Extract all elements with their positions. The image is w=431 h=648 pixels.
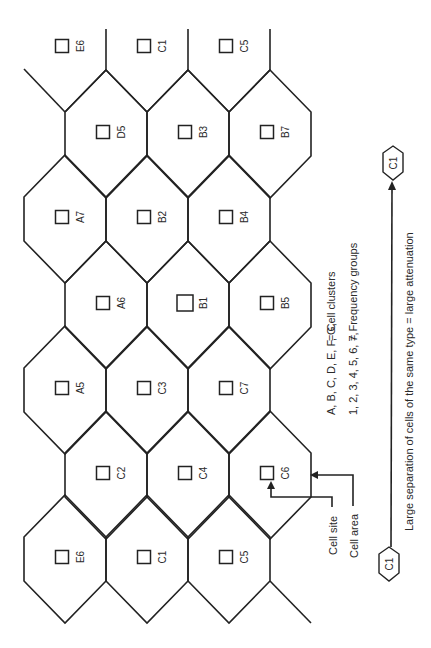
- grid-edge: [24, 69, 65, 112]
- cell-site-icon: [138, 551, 151, 564]
- grid-edge: [229, 70, 270, 112]
- cell-site-icon: [138, 211, 151, 224]
- grid-edge: [65, 70, 106, 112]
- cell-site-icon: [261, 126, 274, 139]
- separation-indicator: C1 C1 Large separation of cells of the s…: [379, 146, 415, 581]
- cell-site-icon: [179, 467, 192, 480]
- cell-site-icon: [177, 295, 193, 311]
- cell-label: A7: [75, 210, 86, 223]
- cell-area-label: Cell area: [348, 513, 360, 558]
- cell-label: A6: [116, 296, 127, 309]
- cell-label: C4: [198, 466, 209, 479]
- marker-hex-top: C1: [383, 146, 403, 180]
- cell-site-icon: [179, 126, 192, 139]
- cell-site-callout: Cell site: [267, 481, 339, 555]
- cell-label: C6: [280, 466, 291, 479]
- cell-site-icon: [56, 211, 69, 224]
- cell-site-icon: [261, 297, 274, 310]
- cell-site-icon: [220, 382, 233, 395]
- cell-site-icon: [138, 40, 151, 53]
- cell-label: B3: [198, 125, 209, 138]
- hex-cell-grid: [24, 70, 311, 623]
- cell-site-icon: [56, 382, 69, 395]
- cell-label: B7: [280, 125, 291, 138]
- legend-clusters-meaning: = Cell clusters: [325, 271, 337, 341]
- cell-site-icon: [97, 467, 110, 480]
- cell-reuse-diagram: E6C1C5D5B3B7A7B2B4A6B1B5A5C3C7C2C4C6E6C1…: [0, 0, 431, 648]
- separation-arrow-line: [391, 188, 392, 547]
- legend: A, B, C, D, E, F, G, = Cell clusters 1, …: [325, 242, 359, 415]
- grid-edge: [188, 70, 229, 112]
- cell-site-icon: [97, 297, 110, 310]
- cell-site-icon: [220, 211, 233, 224]
- grid-edge: [106, 70, 147, 112]
- cell-site-icon: [138, 382, 151, 395]
- cell-sites: E6C1C5D5B3B7A7B2B4A6B1B5A5C3C7C2C4C6E6C1…: [56, 39, 292, 563]
- separation-caption: Large separation of cells of the same ty…: [403, 232, 415, 531]
- grid-edge: [270, 581, 311, 623]
- marker-top-label: C1: [388, 156, 399, 169]
- cell-site-leader-line: [271, 486, 332, 507]
- legend-groups-meaning: = Frequency groups: [347, 242, 359, 341]
- cell-label: C7: [239, 381, 250, 394]
- cell-label: B4: [239, 210, 250, 223]
- cell-site-icon: [261, 467, 274, 480]
- marker-bottom-label: C1: [384, 557, 395, 570]
- cell-label: A5: [75, 381, 86, 394]
- cell-site-icon: [220, 551, 233, 564]
- cell-label: E6: [75, 550, 86, 563]
- cell-site-icon: [220, 40, 233, 53]
- cell-site-icon: [56, 40, 69, 53]
- cell-site-icon: [56, 551, 69, 564]
- cell-label: D5: [116, 125, 127, 138]
- cell-label: B5: [280, 296, 291, 309]
- cell-label: C5: [239, 550, 250, 563]
- marker-hex-bottom: C1: [379, 547, 399, 581]
- cell-label: B2: [157, 210, 168, 223]
- cell-label: B1: [198, 296, 209, 309]
- cell-site-icon: [97, 126, 110, 139]
- arrowhead-up-icon: [267, 481, 275, 489]
- cell-site-label: Cell site: [327, 516, 339, 555]
- arrowhead-up-icon: [388, 181, 396, 190]
- legend-groups-list: 1, 2, 3, 4, 5, 6, 7,: [347, 332, 359, 415]
- cell-label: C1: [157, 550, 168, 563]
- cell-label: C5: [239, 39, 250, 52]
- cell-label: E6: [75, 39, 86, 52]
- cell-label: C3: [157, 381, 168, 394]
- cell-area-leader-line: [316, 475, 353, 506]
- grid-edge: [147, 70, 188, 112]
- cell-label: C1: [157, 39, 168, 52]
- cell-label: C2: [116, 466, 127, 479]
